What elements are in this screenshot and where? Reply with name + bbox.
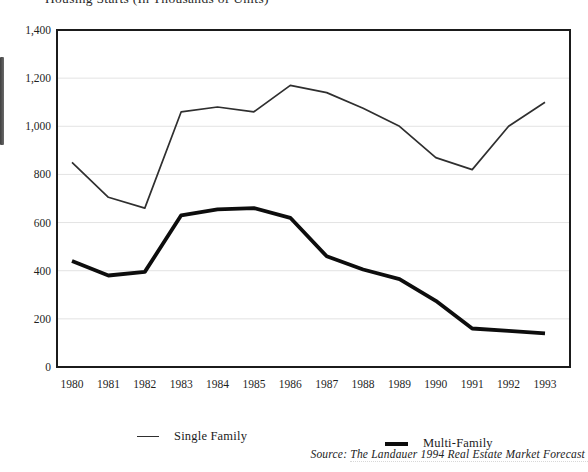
legend-item-single-family: Single Family [137, 429, 247, 444]
y-axis-tick-label: 0 [45, 361, 51, 373]
y-axis-tick-label: 400 [34, 265, 52, 277]
line-chart: 02004006008001,0001,2001,400198019811982… [0, 0, 588, 410]
x-axis-tick-label: 1981 [97, 378, 120, 390]
scan-artifact-line [350, 461, 588, 462]
y-axis-tick-label: 800 [34, 168, 52, 180]
single-family-line-swatch [137, 436, 159, 437]
multi-family-line-swatch [385, 442, 408, 446]
y-axis-tick-label: 600 [34, 217, 52, 229]
legend-label-single-family: Single Family [174, 429, 247, 444]
y-axis-tick-label: 1,200 [25, 72, 51, 85]
x-axis-tick-label: 1988 [352, 378, 375, 390]
x-axis-tick-label: 1987 [315, 378, 338, 390]
x-axis-tick-label: 1990 [424, 378, 447, 390]
single-family-line [72, 85, 545, 208]
y-axis-tick-label: 1,400 [25, 24, 51, 37]
y-axis-tick-label: 200 [34, 313, 52, 325]
x-axis-tick-label: 1983 [170, 378, 193, 390]
x-axis-tick-label: 1982 [133, 378, 156, 390]
x-axis-tick-label: 1989 [388, 378, 411, 390]
x-axis-tick-label: 1993 [534, 378, 557, 390]
x-axis-tick-label: 1986 [279, 378, 302, 390]
x-axis-tick-label: 1980 [61, 378, 84, 390]
x-axis-tick-label: 1985 [242, 378, 265, 390]
plot-border [57, 30, 570, 367]
x-axis-tick-label: 1984 [206, 378, 229, 390]
source-attribution: Source: The Landauer 1994 Real Estate Ma… [310, 448, 585, 460]
y-axis-tick-label: 1,000 [25, 120, 51, 133]
x-axis-tick-label: 1992 [497, 378, 520, 390]
x-axis-tick-label: 1991 [461, 378, 484, 390]
housing-starts-chart-page: Housing Starts (In Thousands of Units) 0… [0, 0, 588, 472]
